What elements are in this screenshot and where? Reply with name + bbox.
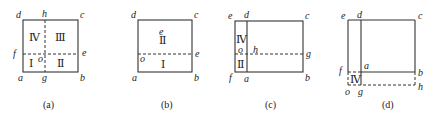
region-II: Ⅱ: [57, 57, 64, 69]
point-e: e: [82, 47, 87, 58]
point-b: b: [305, 72, 310, 83]
point-o: o: [140, 53, 145, 64]
point-a: a: [244, 73, 249, 84]
point-b: b: [418, 67, 423, 78]
point-h: h: [418, 81, 423, 92]
point-e: e: [195, 48, 200, 59]
panel-b: d c e o a b e Ⅱ Ⅰ (b): [131, 9, 200, 111]
point-e: e: [228, 10, 233, 21]
point-o: o: [38, 53, 43, 64]
point-f: f: [229, 72, 233, 83]
point-f: f: [339, 65, 343, 76]
region-IV: Ⅳ: [350, 73, 362, 85]
point-h: h: [42, 8, 47, 19]
point-o: o: [238, 44, 243, 55]
point-c: c: [80, 9, 85, 20]
point-d: d: [16, 9, 22, 20]
caption-c: (c): [265, 99, 276, 111]
caption-b: (b): [161, 99, 173, 111]
point-a: a: [18, 72, 23, 83]
region-III: Ⅲ: [55, 31, 66, 43]
caption-d: (d): [382, 99, 394, 111]
point-c: c: [305, 10, 310, 21]
point-h: h: [253, 44, 258, 55]
point-d: d: [131, 9, 137, 20]
region-II: Ⅱ: [159, 34, 166, 46]
point-e: e: [341, 10, 346, 21]
region-IV: Ⅳ: [29, 31, 41, 43]
region-II: Ⅱ: [237, 58, 244, 70]
point-c: c: [418, 10, 423, 21]
point-f: f: [13, 48, 17, 59]
point-a: a: [132, 72, 137, 83]
point-d: d: [357, 9, 363, 20]
point-a: a: [364, 60, 369, 71]
figure-diagram: d h c f e o a g b Ⅰ Ⅱ Ⅲ Ⅳ (a) d c e o a …: [0, 0, 436, 117]
point-b: b: [194, 72, 199, 83]
region-I: Ⅰ: [161, 58, 165, 70]
point-o: o: [345, 86, 350, 97]
region-I: Ⅰ: [29, 57, 33, 69]
region-IV: Ⅳ: [236, 33, 248, 45]
point-d: d: [244, 9, 250, 20]
rectangle-efbc: [235, 21, 303, 72]
point-g: g: [42, 72, 47, 83]
point-g: g: [306, 48, 311, 59]
caption-a: (a): [43, 99, 54, 111]
panel-c: e d c o h g f a b Ⅳ Ⅱ (c): [228, 9, 311, 111]
point-b: b: [80, 72, 85, 83]
point-g: g: [358, 86, 363, 97]
panel-d: e d c a f b o g h Ⅳ (d): [339, 9, 423, 111]
point-c: c: [194, 9, 199, 20]
panel-a: d h c f e o a g b Ⅰ Ⅱ Ⅲ Ⅳ (a): [13, 8, 87, 111]
